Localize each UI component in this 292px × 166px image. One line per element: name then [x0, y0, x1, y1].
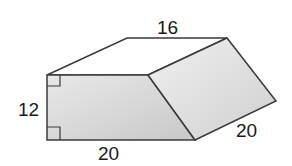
label-left: 12	[18, 99, 39, 120]
label-slant: 20	[236, 120, 257, 141]
prism-diagram: 16 12 20 20	[0, 0, 292, 166]
label-top: 16	[157, 17, 178, 38]
label-bottom: 20	[98, 143, 119, 164]
prism-figure: 16 12 20 20	[0, 0, 292, 166]
